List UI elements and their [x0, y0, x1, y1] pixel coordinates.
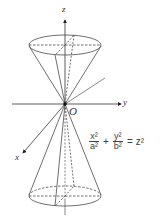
- cone-equation: x² a² + y² b² = z²: [88, 132, 144, 151]
- z-axis-label: z: [62, 5, 66, 14]
- plus-sign: +: [103, 136, 109, 147]
- x-axis-label: x: [15, 153, 19, 162]
- equals-sign: =: [127, 136, 133, 147]
- fraction-x: x² a²: [89, 132, 99, 151]
- fraction-x-denominator: a²: [89, 142, 99, 151]
- origin-point: [63, 102, 67, 106]
- fraction-y: y² b²: [113, 132, 123, 151]
- figure-caption: [0, 214, 162, 222]
- fraction-y-denominator: b²: [113, 142, 123, 151]
- double-cone-diagram: [0, 0, 162, 222]
- y-axis-label: y: [123, 98, 127, 107]
- equation-rhs: z²: [136, 136, 144, 147]
- origin-label: O: [69, 106, 77, 117]
